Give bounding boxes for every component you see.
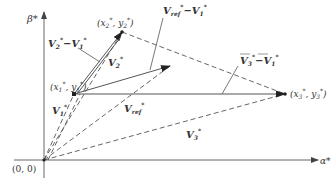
- point-3: [283, 92, 287, 96]
- origin-point: [42, 158, 45, 161]
- beta-axis-label: β*: [26, 13, 38, 24]
- v3-minus-v1-label: V3*−V1*: [240, 53, 279, 67]
- point-2: [120, 30, 124, 34]
- difference-vectors: [74, 32, 285, 94]
- leader-lines: [78, 18, 238, 94]
- alpha-axis-label: α*: [320, 156, 331, 166]
- point-3-label: (x3*, y3*): [290, 87, 327, 100]
- origin-label: (0, 0): [12, 164, 36, 174]
- point-1-label: (x1*, y1*): [50, 80, 87, 93]
- dashed-vectors: [44, 32, 285, 160]
- v1-vector: [44, 94, 74, 160]
- v3-label: V3*: [186, 127, 201, 141]
- vref-minus-v1-label: Vref*−V1*: [163, 3, 207, 18]
- vector-diagram: β* α* (0, 0) (x1*, y1*) (x2*, y2*) (x3*,…: [0, 0, 332, 188]
- v2-minus-v1-label: V2*−V1*: [48, 36, 87, 50]
- point-2-label: (x2*, y2*): [97, 16, 134, 29]
- v3-vector: [44, 94, 285, 160]
- vref-minus-v1-vector: [74, 66, 170, 94]
- v2-label: V2*: [108, 55, 123, 69]
- vref-label: Vref*: [124, 101, 144, 116]
